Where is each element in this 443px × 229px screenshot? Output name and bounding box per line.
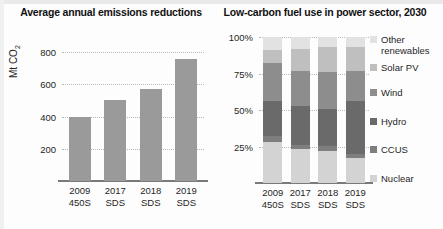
- y-axis-tick-left: 200: [40, 143, 56, 154]
- legend-swatch-icon: [370, 175, 377, 182]
- stack-segment: [291, 37, 310, 49]
- legend-item-label: Other renewables: [381, 34, 442, 56]
- x-axis-tick-year: 2018: [317, 187, 338, 199]
- x-axis-tick-left: 2017SDS: [105, 185, 126, 209]
- x-axis-tick-right: 2009450S: [262, 187, 284, 211]
- chart-panel-lowcarbon: Low-carbon fuel use in power sector, 203…: [218, 0, 443, 229]
- chart-title-right: Low-carbon fuel use in power sector, 203…: [220, 6, 430, 18]
- stack-segment: [318, 151, 337, 183]
- x-axis-tick-year: 2018: [140, 185, 161, 197]
- stack-segment: [318, 109, 337, 147]
- legend-item-label: CCUS: [381, 144, 408, 155]
- x-axis-tick-year: 2019: [176, 185, 197, 197]
- legend-swatch-icon: [370, 36, 377, 43]
- bar-emissions: [175, 59, 197, 181]
- x-axis-tick-left: 2018SDS: [140, 185, 161, 209]
- legend-swatch-icon: [370, 64, 377, 71]
- stacked-bar-lowcarbon: [318, 37, 337, 183]
- y-axis-tick-right: 75%: [234, 68, 253, 79]
- y-axis-tick-right: 100%: [229, 32, 253, 43]
- x-axis-tick-scenario: SDS: [317, 199, 338, 211]
- stacked-bar-lowcarbon: [291, 37, 310, 183]
- bar-emissions: [69, 117, 91, 181]
- stack-segment: [263, 50, 282, 63]
- plot-area-right: 25%50%75%100%2009450S2017SDS2018SDS2019S…: [259, 37, 369, 183]
- legend-item[interactable]: Other renewables: [370, 34, 442, 56]
- x-axis-tick-scenario: SDS: [290, 199, 311, 211]
- x-axis-tick-right: 2018SDS: [317, 187, 338, 211]
- stack-segment: [318, 37, 337, 47]
- plot-area-left: 2004006008002009450S2017SDS2018SDS2019SD…: [62, 36, 204, 181]
- chart-title-left: Average annual emissions reductions: [6, 6, 216, 18]
- stack-segment: [346, 158, 365, 183]
- stack-segment: [346, 71, 365, 102]
- x-axis-tick-scenario: 450S: [262, 199, 284, 211]
- x-axis-tick-scenario: SDS: [176, 197, 197, 209]
- legend-item-label: Solar PV: [381, 62, 419, 73]
- x-axis-tick-left: 2019SDS: [176, 185, 197, 209]
- stack-segment: [263, 37, 282, 50]
- stack-segment: [346, 47, 365, 70]
- stack-segment: [291, 149, 310, 183]
- stack-segment: [346, 37, 365, 47]
- legend-item-label: Wind: [381, 87, 403, 98]
- legend-swatch-icon: [370, 146, 377, 153]
- x-axis-tick-right: 2017SDS: [290, 187, 311, 211]
- x-axis-tick-right: 2019SDS: [345, 187, 366, 211]
- x-axis-tick-year: 2009: [262, 187, 284, 199]
- stack-segment: [263, 101, 282, 136]
- x-axis-tick-scenario: SDS: [140, 197, 161, 209]
- legend-item[interactable]: Wind: [370, 87, 403, 98]
- figure-root: Average annual emissions reductions Mt C…: [0, 0, 443, 229]
- y-axis-label-left-subscript: 2: [14, 45, 21, 49]
- y-axis-tick-right: 50%: [234, 105, 253, 116]
- legend-item-label: Nuclear: [381, 173, 414, 184]
- x-axis-tick-left: 2009450S: [69, 185, 91, 209]
- y-axis-tick-right: 25%: [234, 141, 253, 152]
- legend-item[interactable]: CCUS: [370, 144, 408, 155]
- x-axis-tick-scenario: 450S: [69, 197, 91, 209]
- y-axis-tick-left: 400: [40, 111, 56, 122]
- stack-segment: [346, 101, 365, 154]
- bar-emissions: [140, 89, 162, 181]
- legend-item-label: Hydro: [381, 116, 406, 127]
- stacked-bar-lowcarbon: [263, 37, 282, 183]
- x-axis-tick-year: 2019: [345, 187, 366, 199]
- y-axis-label-left: Mt CO2: [8, 45, 21, 78]
- legend-item[interactable]: Hydro: [370, 116, 406, 127]
- bar-emissions: [104, 100, 126, 181]
- stacked-bar-lowcarbon: [346, 37, 365, 183]
- y-axis-tick-left: 800: [40, 47, 56, 58]
- legend-item[interactable]: Solar PV: [370, 62, 419, 73]
- stack-segment: [263, 63, 282, 101]
- y-axis-label-left-text: Mt CO: [8, 49, 19, 78]
- stack-segment: [291, 49, 310, 71]
- x-axis-tick-year: 2009: [69, 185, 91, 197]
- x-axis-tick-scenario: SDS: [105, 197, 126, 209]
- legend-swatch-icon: [370, 89, 377, 96]
- stack-segment: [318, 47, 337, 72]
- stack-segment: [318, 72, 337, 109]
- legend-swatch-icon: [370, 118, 377, 125]
- x-axis-tick-scenario: SDS: [345, 199, 366, 211]
- x-axis-tick-year: 2017: [105, 185, 126, 197]
- stack-segment: [291, 106, 310, 145]
- legend-item[interactable]: Nuclear: [370, 173, 414, 184]
- stack-segment: [263, 142, 282, 183]
- stack-segment: [291, 71, 310, 106]
- x-axis-tick-year: 2017: [290, 187, 311, 199]
- chart-panel-emissions: Average annual emissions reductions Mt C…: [0, 0, 222, 229]
- y-axis-tick-left: 600: [40, 79, 56, 90]
- gridline-left: [62, 52, 204, 53]
